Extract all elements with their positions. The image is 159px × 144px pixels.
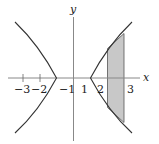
tick-label-2: 2 xyxy=(97,83,104,96)
y-axis-label: y xyxy=(69,3,77,16)
tick-label-3: 3 xyxy=(127,83,134,96)
tick-label-neg3: −3 xyxy=(14,83,30,96)
tick-label-1: 1 xyxy=(81,83,88,96)
tick-label-neg1: −1 xyxy=(59,83,75,96)
hyperbola-diagram: y x −3 −2 −1 1 2 3 xyxy=(0,0,159,144)
x-axis-label: x xyxy=(143,71,150,84)
tick-label-neg2: −2 xyxy=(31,83,47,96)
